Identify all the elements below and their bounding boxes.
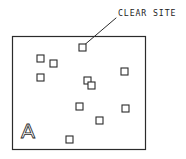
obstruction-group bbox=[37, 44, 129, 143]
clear-site-label: CLEAR SITE bbox=[118, 8, 176, 18]
obstruction-9 bbox=[76, 103, 83, 110]
zone-label-a: A bbox=[21, 119, 35, 142]
clear-site-leader-line bbox=[86, 18, 117, 44]
obstruction-3 bbox=[37, 74, 44, 81]
obstruction-10 bbox=[96, 117, 103, 124]
obstruction-11 bbox=[66, 136, 73, 143]
obstruction-8 bbox=[122, 105, 129, 112]
obstruction-4 bbox=[79, 44, 86, 51]
obstruction-6 bbox=[88, 82, 95, 89]
obstruction-7 bbox=[121, 68, 128, 75]
obstruction-1 bbox=[37, 55, 44, 62]
diagram-canvas: CLEAR SITE A bbox=[0, 0, 186, 159]
obstruction-2 bbox=[50, 60, 57, 67]
site-plan-diagram: CLEAR SITE A bbox=[0, 0, 186, 159]
